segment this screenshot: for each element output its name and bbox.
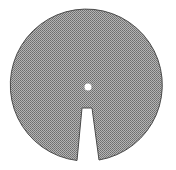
slotted-disk-figure (0, 0, 176, 170)
center-hole (85, 84, 92, 91)
